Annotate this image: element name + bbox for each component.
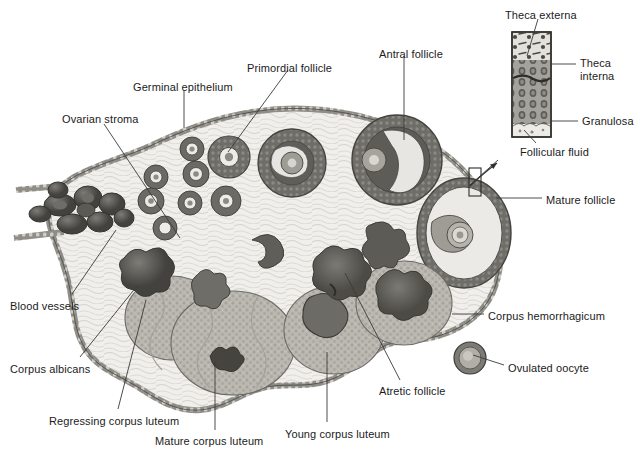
label-ovulated-oocyte: Ovulated oocyte [508,362,589,375]
label-corpus-hemorrhagicum: Corpus hemorrhagicum [488,310,605,323]
figure-canvas: Ovarian stromaGerminal epitheliumPrimord… [0,0,638,455]
label-atretic-follicle: Atretic follicle [379,385,445,398]
primordial-follicle [178,191,202,215]
label-primordial-follicle: Primordial follicle [247,62,332,75]
secondary-follicle [258,129,326,197]
antral-follicle [352,115,442,205]
inset-follicular-fluid-band [513,124,550,136]
label-antral-follicle: Antral follicle [379,48,443,61]
label-theca-interna: Theca interna [580,57,614,83]
primordial-follicle [144,165,168,189]
label-young-corpus-luteum: Young corpus luteum [285,428,390,441]
inset-granulosa-band [513,92,550,124]
primary-follicle [208,136,250,178]
leader-inset-arrow [470,160,498,185]
label-mature-corpus-luteum: Mature corpus luteum [155,435,263,448]
label-mature-follicle: Mature follicle [546,194,615,207]
primary-follicle [211,186,241,216]
label-blood-vessels: Blood vessels [10,300,79,313]
follicle-wall-inset [470,32,551,186]
label-follicular-fluid: Follicular fluid [520,146,589,159]
label-regressing-corpus-luteum: Regressing corpus luteum [49,415,179,428]
label-theca-externa: Theca externa [505,9,577,22]
primordial-follicle [183,161,209,187]
inset-theca-externa-band [513,33,550,60]
label-germinal-epithelium: Germinal epithelium [133,81,233,94]
mature-corpus-luteum [171,291,295,395]
primordial-follicle [138,188,164,214]
primordial-follicle [180,137,204,161]
label-corpus-albicans: Corpus albicans [10,363,90,376]
label-granulosa: Granulosa [582,115,634,128]
label-ovarian-stroma: Ovarian stroma [62,113,139,126]
